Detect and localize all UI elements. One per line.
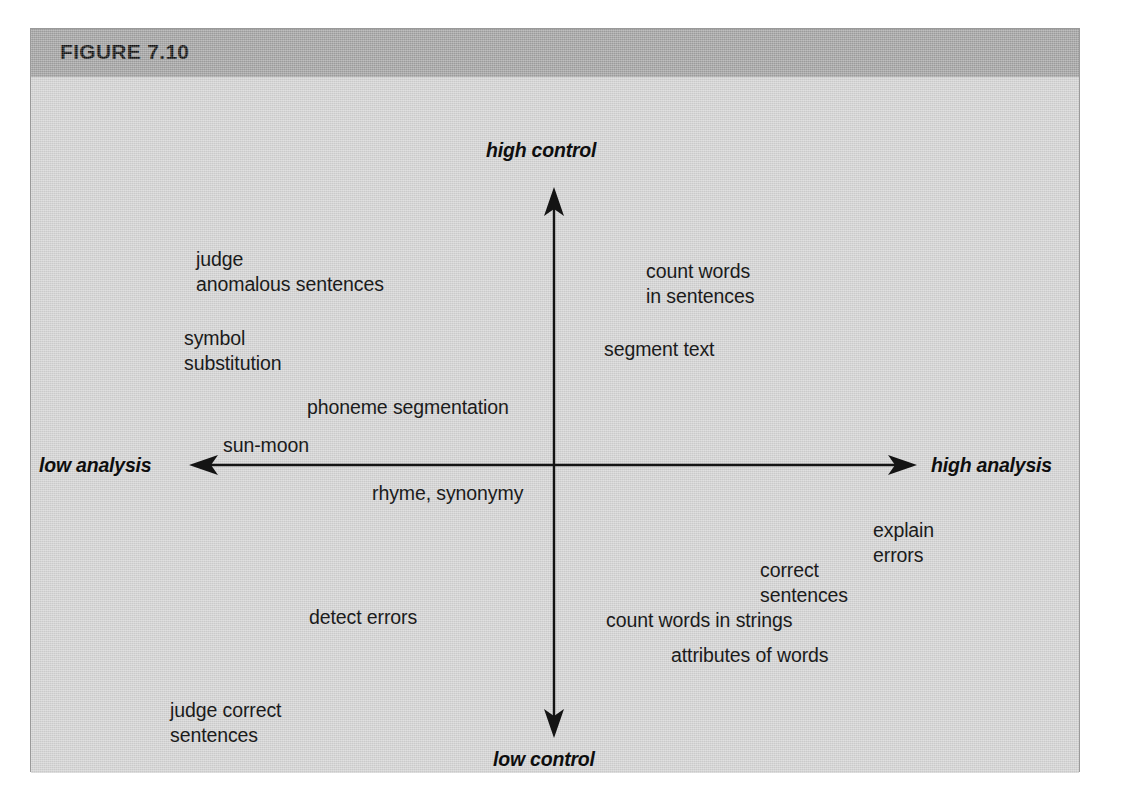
item-segment-text: segment text [604, 337, 714, 362]
axis-label-low-analysis: low analysis [39, 454, 152, 477]
item-phoneme-segmentation: phoneme segmentation [307, 395, 509, 420]
vertical-axis [544, 187, 564, 738]
figure-header-band: FIGURE 7.10 [31, 29, 1079, 77]
item-correct-sentences-line1: correct [760, 558, 819, 583]
item-judge-anomalous-sentences-line2: anomalous sentences [196, 272, 384, 297]
figure-frame: FIGURE 7.10 high control low control low… [30, 28, 1080, 772]
item-attributes-of-words: attributes of words [671, 643, 828, 668]
item-correct-sentences-line2: sentences [760, 583, 848, 608]
quadrant-plot-area: high control low control low analysis hi… [31, 77, 1079, 773]
item-detect-errors: detect errors [309, 605, 417, 630]
item-count-words-in-strings: count words in strings [606, 608, 792, 633]
axis-label-high-analysis: high analysis [931, 454, 1052, 477]
axes-group [31, 77, 1079, 773]
item-count-words-in-sentences-line2: in sentences [646, 284, 754, 309]
item-count-words-in-sentences-line1: count words [646, 259, 750, 284]
item-symbol-substitution-line1: symbol [184, 326, 245, 351]
item-explain-errors-line2: errors [873, 543, 923, 568]
item-rhyme-synonymy: rhyme, synonymy [372, 481, 523, 506]
item-explain-errors-line1: explain [873, 518, 934, 543]
item-sun-moon: sun-moon [223, 433, 309, 458]
item-symbol-substitution-line2: substitution [184, 351, 281, 376]
figure-number-label: FIGURE 7.10 [60, 40, 189, 64]
item-judge-correct-sentences-line1: judge correct [170, 698, 281, 723]
item-judge-anomalous-sentences-line1: judge [196, 247, 243, 272]
axis-label-low-control: low control [493, 748, 595, 771]
item-judge-correct-sentences-line2: sentences [170, 723, 258, 748]
axis-label-high-control: high control [486, 139, 596, 162]
